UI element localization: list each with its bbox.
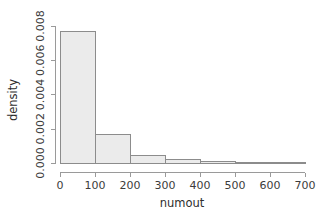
- y-axis: [51, 26, 56, 164]
- histogram-bar: [165, 160, 200, 163]
- x-tick-label-3: 300: [155, 179, 176, 192]
- histogram-bar: [60, 32, 95, 163]
- y-tick-label-3: 0.006: [34, 45, 47, 77]
- x-axis-tick-marks: [61, 173, 306, 178]
- y-axis-title: density: [6, 79, 20, 121]
- histogram-bar: [200, 162, 235, 163]
- x-tick-label-2: 200: [120, 179, 141, 192]
- y-axis-tick-labels: 0.000 0.002 0.004 0.006 0.008: [34, 10, 47, 179]
- x-tick-label-7: 700: [295, 179, 316, 192]
- histogram-plot: density 0.000 0.002 0.004 0.006 0.008 01…: [0, 0, 327, 222]
- x-axis-tick-labels: 0100200300400500600700: [57, 179, 316, 192]
- histogram-bar: [270, 163, 305, 164]
- y-tick-label-4: 0.008: [34, 10, 47, 42]
- histogram-bar: [130, 155, 165, 163]
- y-tick-label-0: 0.000: [34, 147, 47, 179]
- x-tick-label-5: 500: [225, 179, 246, 192]
- x-axis: [60, 173, 306, 178]
- x-tick-label-6: 600: [260, 179, 281, 192]
- histogram-bars: [60, 32, 305, 163]
- plot-canvas: density 0.000 0.002 0.004 0.006 0.008 01…: [0, 0, 327, 222]
- y-tick-label-1: 0.002: [34, 113, 47, 145]
- x-axis-title: numout: [160, 196, 205, 210]
- histogram-bar: [235, 162, 270, 163]
- x-tick-label-0: 0: [57, 179, 64, 192]
- x-tick-label-1: 100: [85, 179, 106, 192]
- histogram-bar: [95, 135, 130, 163]
- x-tick-label-4: 400: [190, 179, 211, 192]
- y-tick-label-2: 0.004: [34, 79, 47, 111]
